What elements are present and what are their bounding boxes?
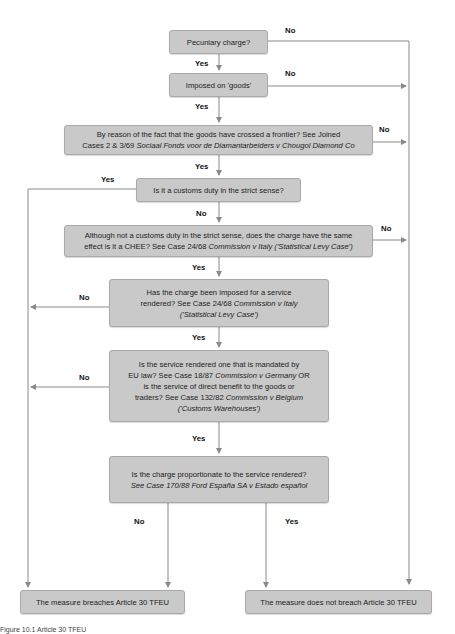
node-text: The measure does not breach Article 30 T… [260,597,416,608]
edge-label-q4-yes: Yes [101,175,114,184]
node-text-line2: rendered? See Case 24/68 [140,299,233,308]
edge-label-q3-no: No [379,125,389,134]
node-text-line1: Although not a customs duty in the stric… [85,231,353,240]
case-name: Commission v Belgium [226,393,303,402]
edge-label-q5-yes: Yes [192,263,205,272]
case-name: Commission v Germany [215,371,296,380]
edge-label-q2-yes: Yes [195,102,208,111]
node-text-line2: effect is it a CHEE? See Case 24/68 [84,242,208,251]
node-crossed-frontier: By reason of the fact that the goods hav… [64,125,373,155]
node-text: Imposed on 'goods' [186,80,251,91]
node-text: Pecuniary charge? [187,37,250,48]
node-text-line1: Has the charge been imposed for a servic… [147,288,292,297]
node-mandated-by-eu-law: Is the service rendered one that is mand… [109,350,329,422]
edge-label-q6-yes: Yes [192,333,205,342]
node-text-line2: Cases 2 & 3/69 [82,141,136,150]
edge-label-q4-no: No [196,209,206,218]
edge-label-q3-yes: Yes [195,162,208,171]
flowchart: Pecuniary charge? Imposed on 'goods' By … [0,0,455,634]
node-text-line4: traders? See Case 132/82 [135,393,226,402]
case-name: Commission v Italy ('Statistical Levy Ca… [209,242,353,251]
node-chee: Although not a customs duty in the stric… [64,225,373,257]
edge-label-q6-no: No [79,293,89,302]
node-text-line3: is the service of direct benefit to the … [143,382,294,391]
edge-label-q8-no: No [134,517,144,526]
edge-label-q7-no: No [79,373,89,382]
node-text: Is it a customs duty in the strict sense… [153,185,283,196]
node-proportionate: Is the charge proportionate to the servi… [109,456,329,503]
edge-label-q5-no: No [381,224,391,233]
case-nickname: ('Statistical Levy Case') [180,310,258,319]
node-text-line1: By reason of the fact that the goods hav… [97,130,341,139]
node-customs-duty: Is it a customs duty in the strict sense… [136,178,301,202]
case-name: Commission v Italy [234,299,298,308]
edge-label-q2-no: No [285,69,295,78]
edge-label-q8-yes: Yes [285,517,298,526]
outcome-breach: The measure breaches Article 30 TFEU [20,590,185,614]
edge-label-q1-no: No [285,26,295,35]
node-service-rendered: Has the charge been imposed for a servic… [109,279,329,327]
figure-caption: Figure 10.1 Article 30 TFEU [0,626,86,633]
node-text-line1: Is the charge proportionate to the servi… [132,470,307,479]
node-text: The measure breaches Article 30 TFEU [36,597,169,608]
node-imposed-on-goods: Imposed on 'goods' [169,73,268,97]
outcome-no-breach: The measure does not breach Article 30 T… [245,590,432,614]
case-name: Sociaal Fonds voor de Diamantarbeiders v… [136,141,354,150]
edge-label-q7-yes: Yes [192,434,205,443]
node-pecuniary-charge: Pecuniary charge? [169,30,268,54]
case-nickname: ('Customs Warehouses') [178,404,261,413]
node-text-line1: Is the service rendered one that is mand… [139,360,299,369]
edge-label-q1-yes: Yes [195,59,208,68]
node-text-line2: EU law? See Case 18/87 [128,371,215,380]
case-name: See Case 170/88 Ford España SA v Estado … [131,481,308,490]
